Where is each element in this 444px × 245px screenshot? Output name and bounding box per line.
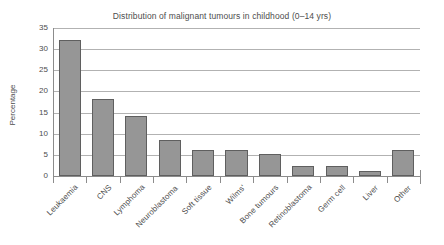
x-axis-tick-mark xyxy=(53,176,54,183)
x-axis-tick-mark xyxy=(387,176,388,183)
y-axis-tick-group: 05101520253035 xyxy=(14,28,48,177)
x-axis-tick-mark xyxy=(86,176,87,183)
x-axis-tick-label: CNS xyxy=(95,183,114,202)
x-axis-tick-mark xyxy=(420,176,421,183)
x-axis-tick-mark xyxy=(153,176,154,183)
bar xyxy=(292,166,314,176)
x-axis-tick-mark xyxy=(320,176,321,183)
x-axis-tick-label: Lymphoma xyxy=(112,183,147,218)
y-axis-tick-label: 35 xyxy=(18,24,48,32)
bar xyxy=(125,116,147,176)
x-axis-tick-mark xyxy=(253,176,254,183)
bar-chart: Distribution of malignant tumours in chi… xyxy=(0,0,444,245)
y-axis-tick-label: 10 xyxy=(18,130,48,138)
x-axis-tick-label: Other xyxy=(392,183,413,204)
bar xyxy=(225,150,247,176)
plot-area xyxy=(53,28,420,176)
bar xyxy=(59,40,81,176)
x-axis-tick-mark xyxy=(353,176,354,183)
gridline xyxy=(53,70,420,71)
x-axis-tick-mark xyxy=(287,176,288,183)
x-axis-tick-label: Liver xyxy=(361,183,380,202)
y-axis-tick-label: 15 xyxy=(18,109,48,117)
x-axis-tick-mark xyxy=(186,176,187,183)
x-axis-label-group: LeukaemiaCNSLymphomaNeuroblastomaSoft ti… xyxy=(53,184,444,245)
gridline xyxy=(53,91,420,92)
y-axis-line xyxy=(53,28,54,177)
x-axis-tick-group xyxy=(53,176,421,184)
bar xyxy=(192,150,214,176)
bar xyxy=(392,150,414,176)
x-axis-tick-label: Germ cell xyxy=(316,183,347,214)
y-axis-tick-label: 25 xyxy=(18,66,48,74)
y-axis-tick-label: 5 xyxy=(18,151,48,159)
x-axis-tick-mark xyxy=(220,176,221,183)
bar xyxy=(159,140,181,176)
x-axis-tick-label: Leukaemia xyxy=(45,183,80,218)
y-axis-tick-label: 0 xyxy=(18,172,48,180)
x-axis-tick-label: Wilms' xyxy=(224,183,247,206)
bar xyxy=(259,154,281,176)
chart-title: Distribution of malignant tumours in chi… xyxy=(0,11,444,21)
bar xyxy=(92,99,114,176)
gridline xyxy=(53,49,420,50)
y-axis-tick-label: 30 xyxy=(18,45,48,53)
x-axis-tick-label: Soft tissue xyxy=(180,183,214,217)
bar xyxy=(326,166,348,176)
gridline xyxy=(53,28,420,29)
y-axis-tick-label: 20 xyxy=(18,87,48,95)
x-axis-tick-mark xyxy=(120,176,121,183)
